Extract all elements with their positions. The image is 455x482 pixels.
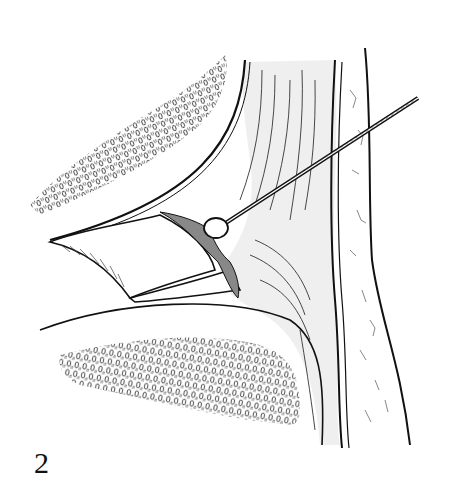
anatomical-illustration	[0, 0, 455, 482]
figure-number-label: 2	[34, 448, 49, 478]
upper-bone-texture	[30, 55, 227, 215]
probe-ball-tip	[204, 218, 228, 238]
lower-bone-texture	[60, 338, 300, 425]
